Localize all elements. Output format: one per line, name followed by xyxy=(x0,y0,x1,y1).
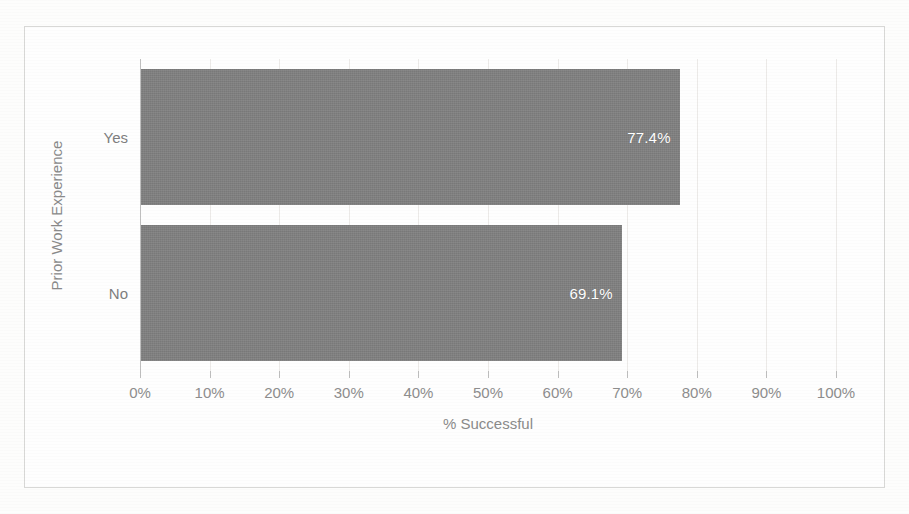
x-axis-tick xyxy=(766,371,767,378)
x-axis-tick xyxy=(140,371,141,378)
bar[interactable]: 77.4% xyxy=(141,69,680,206)
x-axis-tick-label: 0% xyxy=(129,384,151,401)
gridline xyxy=(836,59,837,371)
gridline xyxy=(697,59,698,371)
bar-data-label: 77.4% xyxy=(627,129,671,146)
x-axis-title-label: % Successful xyxy=(443,415,533,432)
x-axis-tick xyxy=(349,371,350,378)
x-axis-tick-label: 20% xyxy=(264,384,294,401)
x-axis-title: % Successful xyxy=(140,415,836,432)
x-axis-tick xyxy=(279,371,280,378)
page-background: Prior Work Experience YesNo 0%10%20%30%4… xyxy=(0,0,909,514)
plot-area: 0%10%20%30%40%50%60%70%80%90%100%77.4%69… xyxy=(140,59,836,371)
x-axis-tick xyxy=(488,371,489,378)
x-axis-tick-label: 80% xyxy=(682,384,712,401)
x-axis-tick xyxy=(836,371,837,378)
x-axis-tick xyxy=(418,371,419,378)
y-axis-tick-labels: YesNo xyxy=(25,59,140,371)
x-axis-tick xyxy=(627,371,628,378)
x-axis-tick-label: 30% xyxy=(334,384,364,401)
x-axis-tick-label: 90% xyxy=(751,384,781,401)
x-axis-tick-label: 60% xyxy=(543,384,573,401)
x-axis-tick xyxy=(558,371,559,378)
bar[interactable]: 69.1% xyxy=(141,225,622,362)
x-axis-tick-label: 50% xyxy=(473,384,503,401)
x-axis-tick-label: 70% xyxy=(612,384,642,401)
bar-data-label: 69.1% xyxy=(569,285,613,302)
chart-area[interactable]: Prior Work Experience YesNo 0%10%20%30%4… xyxy=(24,26,885,488)
y-axis-category-label: Yes xyxy=(104,129,128,146)
y-axis-category-label: No xyxy=(109,285,128,302)
x-axis-tick xyxy=(210,371,211,378)
gridline xyxy=(766,59,767,371)
x-axis-tick-label: 100% xyxy=(817,384,855,401)
x-axis-tick xyxy=(697,371,698,378)
x-axis-tick-label: 10% xyxy=(195,384,225,401)
x-axis-tick-label: 40% xyxy=(403,384,433,401)
